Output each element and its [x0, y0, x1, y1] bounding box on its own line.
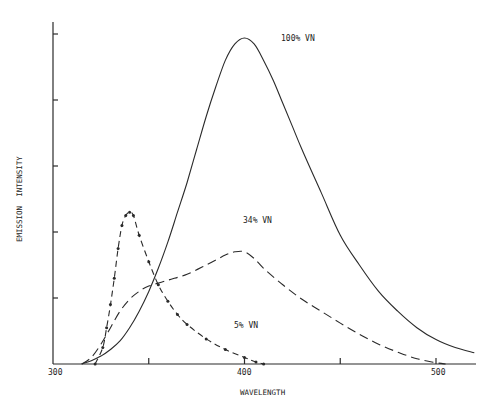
data-point-marker: [186, 323, 189, 326]
series-line-100vn: [82, 38, 475, 364]
data-point-marker: [105, 326, 108, 329]
data-point-marker: [94, 363, 97, 366]
axes: [53, 22, 476, 364]
data-point-marker: [117, 247, 120, 250]
series-label-100: 100% VN: [281, 34, 315, 43]
data-point-marker: [157, 283, 160, 286]
x-tick-label-300: 300: [48, 368, 63, 377]
data-point-marker: [243, 356, 246, 359]
data-point-marker: [138, 234, 141, 237]
data-point-marker: [109, 303, 112, 306]
data-point-marker: [101, 346, 104, 349]
data-point-marker: [113, 277, 116, 280]
data-point-marker: [147, 260, 150, 263]
data-point-marker: [124, 214, 127, 217]
x-axis-label: WAVELENGTH: [240, 388, 286, 397]
x-ticks: [149, 358, 436, 364]
data-point-marker: [205, 337, 208, 340]
y-ticks: [53, 34, 58, 298]
data-point-marker: [120, 224, 123, 227]
data-point-marker: [176, 313, 179, 316]
x-tick-label-400: 400: [237, 368, 252, 377]
curves: [82, 38, 475, 366]
data-point-marker: [166, 300, 169, 303]
data-point-marker: [132, 214, 135, 217]
series-label-34: 34% VN: [243, 216, 272, 225]
data-point-marker: [128, 211, 131, 214]
data-point-marker: [224, 348, 227, 351]
x-tick-label-500: 500: [431, 368, 446, 377]
data-point-marker: [254, 361, 257, 364]
series-line-34vn: [82, 251, 446, 364]
y-axis-label: EMISSION INTENSITY: [15, 156, 24, 242]
emission-spectrum-chart: 300 400 500 WAVELENGTH EMISSION INTENSIT…: [0, 0, 492, 408]
data-point-marker: [262, 363, 265, 366]
series-label-5: 5% VN: [234, 321, 258, 330]
